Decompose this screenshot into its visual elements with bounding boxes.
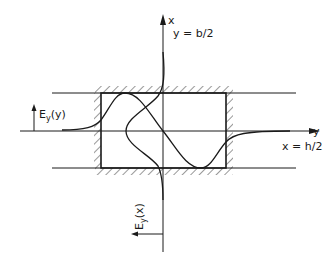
arrow-left-icon bbox=[131, 232, 138, 237]
x-boundary-label: x = h/2 bbox=[282, 140, 322, 153]
ey-y-label-arrow bbox=[32, 104, 37, 131]
y-boundary-label: y = b/2 bbox=[173, 27, 213, 40]
x-axis-arrow-icon bbox=[160, 14, 166, 25]
ey-x-label-arrow bbox=[131, 232, 163, 237]
y-axis-label: y bbox=[313, 125, 320, 138]
ey-y-label: Ey(y) bbox=[39, 108, 66, 123]
waveguide-diagram: Ey(y) Ey(x) x y = b/2 y x = h/2 bbox=[0, 0, 336, 264]
ey-x-curve bbox=[126, 52, 164, 200]
ey-x-label: Ey(x) bbox=[133, 203, 148, 230]
arrow-up-icon bbox=[32, 104, 37, 111]
x-axis-label: x bbox=[168, 14, 175, 27]
